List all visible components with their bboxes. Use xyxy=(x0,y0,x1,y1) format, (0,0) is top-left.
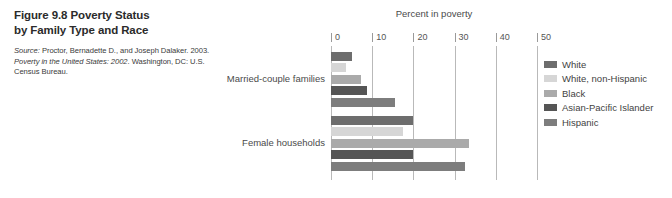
chart-area: Percent in poverty 01020304050 Married-c… xyxy=(0,0,672,198)
legend-swatch-icon xyxy=(544,75,557,82)
bar-married-couple-families-hispanic xyxy=(331,98,395,107)
legend-swatch-icon xyxy=(544,61,557,68)
legend-item-black: Black xyxy=(544,86,653,101)
plot-region: 01020304050 xyxy=(331,32,537,180)
legend-item-asian-pacific-islander: Asian-Pacific Islander xyxy=(544,101,653,116)
x-tick-mark-40 xyxy=(496,33,497,42)
bar-married-couple-families-white xyxy=(331,52,352,61)
legend-label: White, non-Hispanic xyxy=(562,73,647,84)
x-tick-mark-10 xyxy=(372,33,373,42)
figure-container: Figure 9.8 Poverty Status by Family Type… xyxy=(0,0,672,198)
bar-female-households-black xyxy=(331,139,469,148)
x-tick-label-40: 40 xyxy=(500,32,510,42)
bar-female-households-asian-pacific-islander xyxy=(331,150,413,159)
x-tick-label-20: 20 xyxy=(417,32,427,42)
legend-label: Hispanic xyxy=(562,117,598,128)
x-tick-mark-30 xyxy=(455,33,456,42)
legend-swatch-icon xyxy=(544,104,557,111)
bars-layer xyxy=(331,46,537,180)
legend-item-hispanic: Hispanic xyxy=(544,115,653,130)
category-label-married-couple-families: Married-couple families xyxy=(165,73,325,84)
x-tick-label-30: 30 xyxy=(459,32,469,42)
legend-label: Black xyxy=(562,88,585,99)
gridline-50 xyxy=(537,46,538,180)
bar-married-couple-families-black xyxy=(331,75,361,84)
bar-female-households-hispanic xyxy=(331,162,465,171)
chart-legend: WhiteWhite, non-HispanicBlackAsian-Pacif… xyxy=(544,57,653,130)
bar-female-households-white-non-hispanic xyxy=(331,127,403,136)
legend-item-white: White xyxy=(544,57,653,72)
bar-married-couple-families-white-non-hispanic xyxy=(331,63,346,72)
x-tick-mark-50 xyxy=(537,33,538,42)
x-axis-title: Percent in poverty xyxy=(331,8,537,19)
legend-swatch-icon xyxy=(544,90,557,97)
legend-label: White xyxy=(562,59,586,70)
x-tick-label-10: 10 xyxy=(376,32,386,42)
legend-label: Asian-Pacific Islander xyxy=(562,102,653,113)
x-tick-mark-20 xyxy=(413,33,414,42)
x-tick-label-0: 0 xyxy=(335,32,340,42)
legend-swatch-icon xyxy=(544,119,557,126)
category-label-female-households: Female households xyxy=(165,137,325,148)
bar-married-couple-families-asian-pacific-islander xyxy=(331,86,367,95)
bar-female-households-white xyxy=(331,116,413,125)
x-tick-mark-0 xyxy=(331,33,332,42)
legend-item-white-non-hispanic: White, non-Hispanic xyxy=(544,72,653,87)
x-tick-label-50: 50 xyxy=(541,32,551,42)
